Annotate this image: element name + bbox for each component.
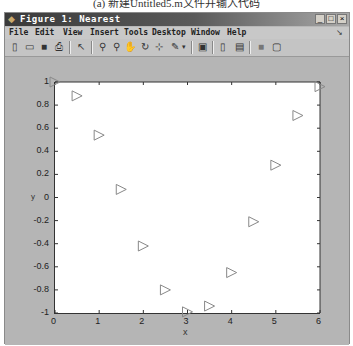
menu-window[interactable]: Window (191, 27, 220, 39)
x-tick-label: 6 (316, 316, 321, 326)
insert-colorbar-icon[interactable]: ▯ (217, 41, 229, 53)
open-file-icon[interactable]: ▭ (23, 41, 35, 53)
pan-hand-icon[interactable]: ✋ (124, 41, 136, 53)
hide-plot-tools-icon[interactable]: ■ (255, 41, 267, 53)
x-tick-label: 3 (184, 316, 189, 326)
brush-icon[interactable]: ✎ (169, 41, 181, 53)
x-tick-label: 4 (228, 316, 233, 326)
edit-plot-arrow-icon[interactable]: ↖ (75, 41, 87, 53)
toolbar-separator (91, 41, 93, 54)
menu-desktop[interactable]: Desktop (152, 27, 186, 39)
matlab-figure-window: ◆ Figure 1: Nearest _ □ × File Edit View… (4, 12, 350, 344)
insert-legend-icon[interactable]: ▤ (233, 41, 245, 53)
y-tick-label: 0 (44, 192, 49, 202)
show-plot-tools-icon[interactable]: ▢ (270, 41, 282, 53)
data-point-marker (271, 160, 281, 170)
figure-toolbar: ▯ ▭ ■ ⎙ ↖ ⚲ ⚲ ✋ ↻ ⊹ ✎ ▾ ▣ ▯ ▤ ■ ▢ (5, 39, 349, 57)
maximize-button[interactable]: □ (326, 14, 336, 24)
data-point-marker (227, 268, 237, 278)
menu-insert[interactable]: Insert (90, 27, 119, 39)
toolbar-separator (191, 41, 193, 54)
y-tick-label: -0.2 (33, 215, 49, 225)
data-point-marker (138, 241, 148, 251)
print-icon[interactable]: ⎙ (53, 41, 65, 53)
matlab-logo-icon: ◆ (8, 15, 17, 24)
plot-axes[interactable] (54, 82, 320, 314)
menu-view[interactable]: View (63, 27, 82, 39)
y-tick-label: -0.4 (33, 238, 49, 248)
toolbar-separator (249, 41, 251, 54)
x-tick-label: 0 (51, 316, 56, 326)
plot-svg (55, 82, 320, 313)
toolbar-separator (212, 41, 214, 54)
data-point-marker (293, 110, 303, 120)
link-plot-icon[interactable]: ▣ (196, 41, 208, 53)
zoom-out-icon[interactable]: ⚲ (110, 41, 122, 53)
data-point-marker (94, 130, 104, 140)
rotate-3d-icon[interactable]: ↻ (139, 41, 151, 53)
dock-arrow-icon[interactable]: ↘ (336, 28, 343, 37)
menu-help[interactable]: Help (227, 27, 246, 39)
zoom-in-icon[interactable]: ⚲ (96, 41, 108, 53)
y-tick-label: -0.6 (33, 261, 49, 271)
y-tick-label: -1 (41, 307, 49, 317)
brush-dropdown-icon[interactable]: ▾ (181, 41, 187, 53)
data-point-marker (205, 301, 215, 311)
data-point-marker (72, 91, 82, 101)
title-bar[interactable]: ◆ Figure 1: Nearest _ □ × (5, 13, 349, 26)
menu-file[interactable]: File (9, 27, 28, 39)
figure-canvas: 10.80.60.40.20-0.2-0.4-0.6-0.8-1 0123456… (5, 57, 349, 345)
data-point-marker (160, 285, 170, 295)
save-icon[interactable]: ■ (38, 41, 50, 53)
x-tick-label: 2 (139, 316, 144, 326)
y-tick-label: 0.6 (36, 122, 49, 132)
data-point-marker (249, 217, 259, 227)
data-cursor-icon[interactable]: ⊹ (153, 41, 165, 53)
y-tick-label: 0.8 (36, 99, 49, 109)
y-tick-label: 1 (44, 76, 49, 86)
menu-bar: File Edit View Insert Tools Desktop Wind… (5, 27, 349, 39)
close-button[interactable]: × (337, 14, 347, 24)
y-tick-label: 0.4 (36, 145, 49, 155)
figure-caption: (a) 新建Untitled5.m文件并输入代码 (0, 0, 353, 10)
y-tick-label: -0.8 (33, 284, 49, 294)
menu-tools[interactable]: Tools (124, 27, 148, 39)
toolbar-separator (69, 41, 71, 54)
data-point-marker (116, 184, 126, 194)
x-tick-label: 5 (272, 316, 277, 326)
y-axis-label: y (31, 192, 35, 201)
new-figure-icon[interactable]: ▯ (9, 41, 21, 53)
minimize-button[interactable]: _ (315, 14, 325, 24)
x-tick-label: 1 (95, 316, 100, 326)
y-tick-label: 0.2 (36, 168, 49, 178)
x-axis-label: x (183, 327, 188, 337)
menu-edit[interactable]: Edit (35, 27, 54, 39)
window-title: Figure 1: Nearest (20, 13, 121, 26)
